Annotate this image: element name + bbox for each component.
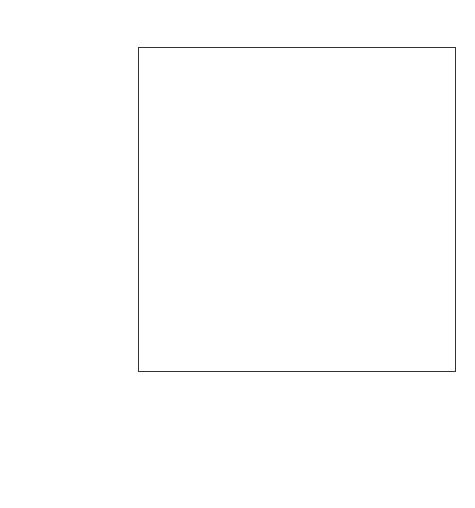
matrix-grid (139, 48, 455, 371)
confusion-matrix-plot (138, 47, 456, 372)
